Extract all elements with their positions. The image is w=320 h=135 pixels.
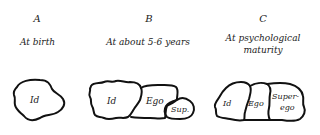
panel-c-superego-label-line2: ego: [280, 103, 295, 112]
panel-c-superego-label-line1: Super-: [272, 92, 299, 101]
panel-c-ego-label: Ego: [247, 99, 264, 108]
panel-c-id-region: [215, 82, 251, 120]
panel-b-sup-label: Sup.: [171, 105, 189, 114]
panel-c-superego-region: [267, 83, 305, 121]
diagram-shapes: Id Id Ego Sup. Id Ego Super- ego: [0, 0, 320, 135]
panel-a-id-label: Id: [29, 95, 40, 105]
panel-b-id-label: Id: [106, 96, 117, 106]
panel-c-id-label: Id: [222, 99, 231, 108]
psyche-development-diagram: A At birth B At about 5-6 years C At psy…: [0, 0, 320, 135]
panel-b-ego-label: Ego: [145, 96, 164, 106]
